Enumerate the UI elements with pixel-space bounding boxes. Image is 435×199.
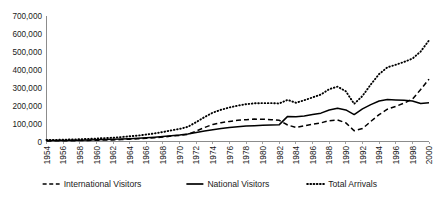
x-tick-label: 1974 [209, 146, 218, 165]
x-tick-label: 1986 [309, 146, 318, 165]
x-tick-label: 1968 [159, 146, 168, 165]
x-tick-label: 1982 [276, 146, 285, 165]
x-tick-label: 1962 [109, 146, 118, 165]
x-tick-label: 1992 [359, 146, 368, 165]
chart-legend: International VisitorsNational VisitorsT… [43, 179, 377, 189]
x-tick-label: 1988 [325, 146, 334, 165]
x-tick-label: 2000 [425, 146, 434, 165]
x-tick-label: 1954 [43, 146, 52, 165]
legend-label-national-visitors: National Visitors [207, 179, 269, 189]
chart-canvas: 700,000600,000500,000400,000300,000200,0… [0, 0, 435, 199]
line-chart: 700,000600,000500,000400,000300,000200,0… [0, 0, 435, 199]
x-tick-label: 1956 [59, 146, 68, 165]
x-tick-label: 1984 [292, 146, 301, 165]
x-tick-label: 1958 [76, 146, 85, 165]
y-tick-label: 700,000 [12, 12, 42, 21]
x-tick-label: 1996 [392, 146, 401, 165]
x-tick-label: 1964 [126, 146, 135, 165]
data-series-group [47, 40, 430, 141]
y-tick-label: 600,000 [12, 30, 42, 39]
y-tick-label: 400,000 [12, 66, 42, 75]
y-tick-label: 500,000 [12, 48, 42, 57]
x-tick-label: 1976 [226, 146, 235, 165]
x-tick-label: 1960 [93, 146, 102, 165]
y-tick-label: 200,000 [12, 102, 42, 111]
y-tick-label: 300,000 [12, 84, 42, 93]
x-tick-label: 1998 [409, 146, 418, 165]
y-axis-tick-labels: 700,000600,000500,000400,000300,000200,0… [12, 12, 42, 147]
x-tick-label: 1966 [142, 146, 151, 165]
x-tick-label: 1990 [342, 146, 351, 165]
x-tick-label: 1972 [192, 146, 201, 165]
legend-label-total-arrivals: Total Arrivals [328, 179, 377, 189]
x-tick-label: 1994 [375, 146, 384, 165]
y-tick-label: 0 [37, 138, 42, 147]
series-line-international-visitors [47, 79, 430, 141]
x-axis-tick-labels: 1954195619581960196219641966196819701972… [43, 142, 435, 165]
x-tick-label: 1970 [176, 146, 185, 165]
y-tick-label: 100,000 [12, 120, 42, 129]
series-line-total-arrivals [47, 40, 430, 140]
x-tick-label: 1978 [242, 146, 251, 165]
legend-label-international-visitors: International Visitors [64, 179, 142, 189]
x-tick-label: 1980 [259, 146, 268, 165]
